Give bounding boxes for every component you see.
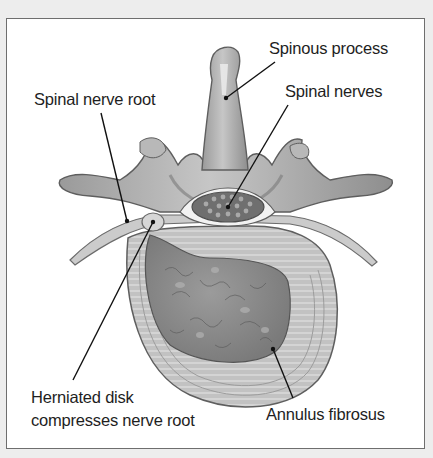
spinous-process: [202, 47, 248, 170]
label-herniated-disk: Herniated disk: [31, 387, 134, 407]
label-spinal-nerves: Spinal nerves: [285, 81, 382, 101]
label-compresses-nerve-root: compresses nerve root: [31, 410, 195, 430]
label-spinal-nerve-root: Spinal nerve root: [34, 89, 155, 109]
label-spinous-process: Spinous process: [269, 38, 388, 58]
intervertebral-disk: [127, 226, 337, 407]
label-annulus-fibrosus: Annulus fibrosus: [266, 404, 385, 424]
